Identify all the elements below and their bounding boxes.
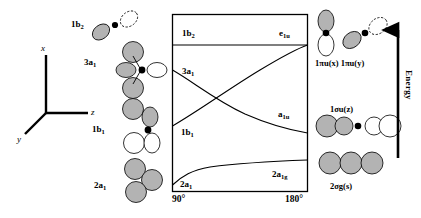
diagram-label-1b1-text: 1b xyxy=(181,127,191,137)
left-orbital-label-3a1: 3a1 xyxy=(84,58,96,67)
left-orbital-label-2a1-sub: 1 xyxy=(103,184,106,191)
coordinate-axes xyxy=(25,55,88,134)
diagram-label-1b2: 1b2 xyxy=(182,29,195,38)
diagram-label-2a1g-sub: 1g xyxy=(281,173,288,180)
diagram-label-a1u: a1u xyxy=(278,110,289,119)
left-orbital-label-1b2-sub: 2 xyxy=(81,23,84,30)
diagram-label-2a1g-text: 2a xyxy=(272,169,281,179)
left-orbital-label-1b1-text: 1b xyxy=(92,124,102,134)
diagram-label-2a1g: 2a1g xyxy=(272,170,288,179)
diagram-label-3a1-text: 3a xyxy=(182,66,191,76)
diagram-label-2a1-sub: 1 xyxy=(189,183,192,190)
diagram-label-2a1-text: 2a xyxy=(180,179,189,189)
figure-graphics xyxy=(0,0,421,218)
right-orbital-label-1sigmau: 1σu(z) xyxy=(330,105,353,114)
correlation-diagram-box xyxy=(173,15,308,192)
orbital-glyph-3a1 xyxy=(116,42,167,99)
axis-label-z: z xyxy=(91,107,95,117)
diagram-label-e1u-sub: 1u xyxy=(283,32,290,39)
diagram-label-1b1-sub: 1 xyxy=(191,131,194,138)
left-orbital-label-2a1: 2a1 xyxy=(94,181,106,190)
orbital-glyph-1b1 xyxy=(123,99,161,154)
diagram-label-2a1: 2a1 xyxy=(180,180,192,189)
walsh-diagram-figure: x z y 1b2 3a1 1b1 2a1 1b2 e1u 3a1 a1u 1b… xyxy=(0,0,421,218)
diagram-label-e1u: e1u xyxy=(279,29,290,38)
diagram-label-a1u-text: a xyxy=(278,109,283,119)
diagram-label-1b2-sub: 2 xyxy=(192,32,195,39)
axis-label-y: y xyxy=(17,134,21,144)
left-orbital-label-3a1-text: 3a xyxy=(84,57,93,67)
left-orbital-label-1b1: 1b1 xyxy=(92,125,105,134)
axis-label-x: x xyxy=(41,43,45,53)
diagram-label-1b2-text: 1b xyxy=(182,28,192,38)
axis-tick-180deg: 180° xyxy=(285,195,303,205)
diagram-label-3a1-sub: 1 xyxy=(191,70,194,77)
diagram-label-a1u-sub: 1u xyxy=(283,113,290,120)
orbital-glyph-1piu-y xyxy=(340,14,391,52)
orbital-glyph-1sigmau-z xyxy=(316,115,401,137)
left-orbital-label-1b2-text: 1b xyxy=(71,19,81,29)
orbital-glyph-1b2 xyxy=(89,8,141,44)
orbital-glyph-1piu-x xyxy=(318,10,334,56)
left-orbital-label-1b2: 1b2 xyxy=(71,20,84,29)
orbital-glyph-2sigmag-s xyxy=(319,152,383,174)
right-orbital-label-1piu: 1πu(x) 1πu(y) xyxy=(315,59,364,68)
left-orbital-label-1b1-sub: 1 xyxy=(102,128,105,135)
diagram-label-3a1: 3a1 xyxy=(182,67,194,76)
energy-axis-label: Energy xyxy=(404,70,414,100)
left-orbital-label-3a1-sub: 1 xyxy=(93,61,96,68)
left-orbital-label-2a1-text: 2a xyxy=(94,180,103,190)
diagram-label-1b1: 1b1 xyxy=(181,128,194,137)
right-orbital-label-2sigmag: 2σg(s) xyxy=(330,182,352,191)
orbital-glyph-2a1 xyxy=(125,159,163,203)
axis-tick-90deg: 90° xyxy=(172,195,185,205)
